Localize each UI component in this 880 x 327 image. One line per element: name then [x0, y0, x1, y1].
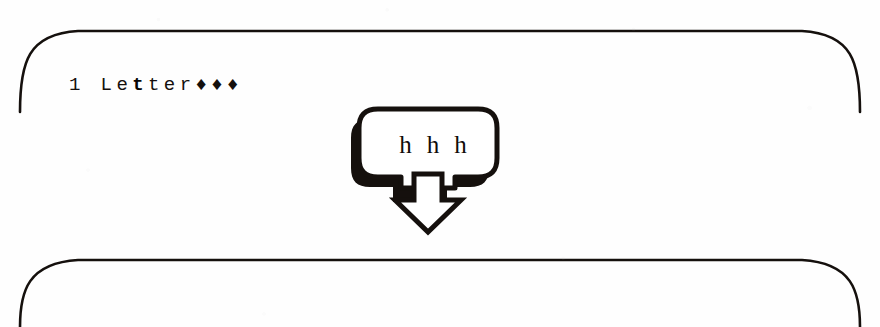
keystroke-callout: h h h	[356, 106, 516, 238]
keystroke-key-1: h	[399, 132, 412, 157]
keystroke-keys: h h h	[376, 118, 490, 170]
screen-before-text-prefix: 1 Le	[69, 74, 132, 96]
screen-after-panel: 1 Letter♦♦♦	[0, 251, 880, 327]
screen-before-panel: 1 Letter♦♦♦	[0, 22, 880, 114]
keystroke-key-2: h	[427, 132, 440, 157]
screen-before-text: 1 Letter♦♦♦	[69, 74, 243, 96]
screen-after-border	[20, 260, 860, 327]
figure-canvas: 1 Letter♦♦♦ h h h 1 Letter♦♦♦	[0, 0, 880, 327]
screen-before-text-suffix: ter♦♦♦	[148, 74, 243, 96]
keystroke-key-3: h	[454, 132, 467, 157]
screen-before-text-bold: t	[132, 74, 148, 96]
screen-before-border	[20, 31, 860, 112]
